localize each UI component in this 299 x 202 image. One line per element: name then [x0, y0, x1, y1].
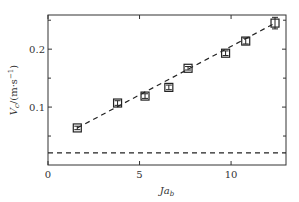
y-axis-label: Vc/(m·s−1): [7, 65, 21, 116]
chart: 05100.10.2JabVc/(m·s−1): [0, 0, 299, 202]
data-point: [242, 37, 250, 45]
x-tick-label: 10: [225, 169, 238, 180]
data-point: [141, 92, 149, 100]
data-point: [222, 49, 230, 57]
data-point: [165, 83, 173, 91]
x-axis-label: Jab: [158, 185, 175, 198]
data-point: [114, 99, 122, 107]
data-point: [73, 124, 81, 132]
x-tick-label: 0: [45, 169, 51, 180]
y-tick-label: 0.2: [29, 44, 45, 55]
x-tick-label: 5: [136, 169, 142, 180]
data-point: [271, 17, 279, 29]
y-tick-label: 0.1: [29, 102, 45, 113]
